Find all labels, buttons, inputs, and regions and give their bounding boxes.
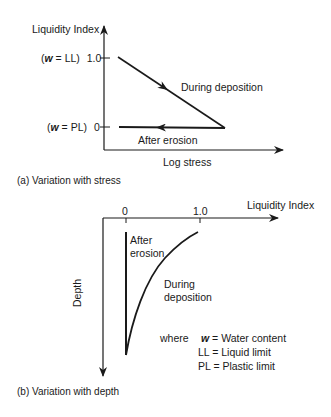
a-tick-bottom-label: (w = PL) 0 [47, 122, 100, 133]
b-tick-0-label: 0 [122, 206, 128, 217]
legend-symbol: w [201, 332, 209, 344]
legend-symbol: LL [198, 346, 209, 358]
legend-entry-pl: PL = Plastic limit [198, 361, 275, 372]
b-caption: (b) Variation with depth [17, 387, 119, 397]
b-x-axis-label: Liquidity Index [247, 200, 314, 211]
water-content-symbol: w [45, 52, 53, 64]
a-x-axis-label: Log stress [163, 157, 211, 168]
water-content-symbol: w [51, 121, 59, 133]
legend-entry-ll: LL = Liquid limit [198, 347, 271, 358]
b-erosion-label-2: erosion [130, 248, 164, 259]
legend-entry-w: w = Water content [201, 333, 286, 344]
legend-intro: where [160, 333, 189, 344]
b-erosion-label-1: After [130, 235, 152, 246]
a-caption: (a) Variation with stress [17, 176, 121, 186]
b-deposition-label-1: During [164, 279, 195, 290]
b-tick-1-label: 1.0 [193, 206, 208, 217]
a-y-axis-label: Liquidity Index [32, 24, 99, 35]
a-erosion-label: After erosion [138, 135, 198, 146]
legend-definition: = Liquid limit [212, 346, 271, 358]
legend-definition: = Water content [212, 332, 286, 344]
b-deposition-label-2: deposition [164, 292, 212, 303]
a-deposition-label: During deposition [181, 82, 263, 93]
legend-symbol: PL [198, 360, 210, 372]
b-y-axis-label: Depth [72, 279, 83, 307]
legend-definition: = Plastic limit [213, 360, 275, 372]
a-tick-top-label: (w = LL) 1.0 [41, 53, 101, 64]
erosion-line [119, 127, 225, 128]
